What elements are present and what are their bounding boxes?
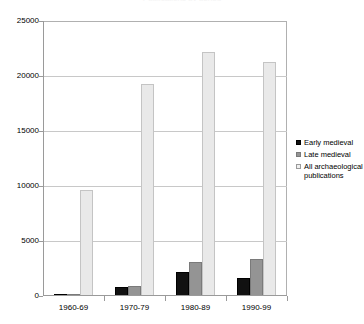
chart-title: Publications by period: [0, 0, 364, 1]
legend-item: Late medieval: [296, 150, 364, 159]
plot-border-top: [43, 21, 287, 22]
x-tick-mark: [226, 296, 227, 301]
x-tick-mark: [104, 296, 105, 301]
gridline: [43, 131, 287, 132]
gridline: [43, 76, 287, 77]
legend-label: Early medieval: [304, 138, 353, 147]
gridline: [43, 186, 287, 187]
bar: [263, 62, 276, 296]
legend: Early medievalLate medievalAll archaeolo…: [296, 138, 364, 183]
bar: [189, 262, 202, 296]
legend-label: Late medieval: [304, 150, 351, 159]
legend-swatch-icon: [296, 164, 301, 169]
x-tick-label: 1980-89: [165, 303, 226, 312]
x-tick-label: 1970-79: [104, 303, 165, 312]
x-tick-mark: [165, 296, 166, 301]
bar: [237, 278, 250, 296]
plot-area: [43, 21, 287, 296]
y-tick-label: 10000: [17, 182, 39, 190]
y-tick-label: 5000: [21, 237, 39, 245]
y-tick-mark: [38, 296, 43, 297]
bar: [250, 259, 263, 296]
legend-item: Early medieval: [296, 138, 364, 147]
bar: [141, 84, 154, 296]
legend-swatch-icon: [296, 140, 301, 145]
plot-border-right: [286, 21, 287, 296]
x-tick-label: 1990-99: [226, 303, 287, 312]
y-tick-label: 20000: [17, 72, 39, 80]
legend-swatch-icon: [296, 152, 301, 157]
legend-item: All archaeological publications: [296, 162, 364, 180]
bar: [202, 52, 215, 296]
legend-label: All archaeological publications: [304, 162, 364, 180]
x-axis-line: [43, 295, 287, 296]
x-tick-label: 1960-69: [43, 303, 104, 312]
bar: [176, 272, 189, 296]
bar: [80, 190, 93, 296]
bar-chart: Publications by period 05000100001500020…: [0, 0, 364, 324]
y-axis-line: [43, 21, 44, 296]
y-tick-label: 15000: [17, 127, 39, 135]
y-tick-label: 25000: [17, 17, 39, 25]
x-tick-mark: [287, 296, 288, 301]
